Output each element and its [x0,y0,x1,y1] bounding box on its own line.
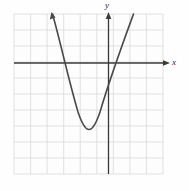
x-axis-arrowhead [163,60,170,66]
graph-canvas [0,0,189,191]
parabola-figure: y x [0,0,189,191]
y-axis-label: y [105,1,109,10]
x-axis-label: x [172,58,176,67]
